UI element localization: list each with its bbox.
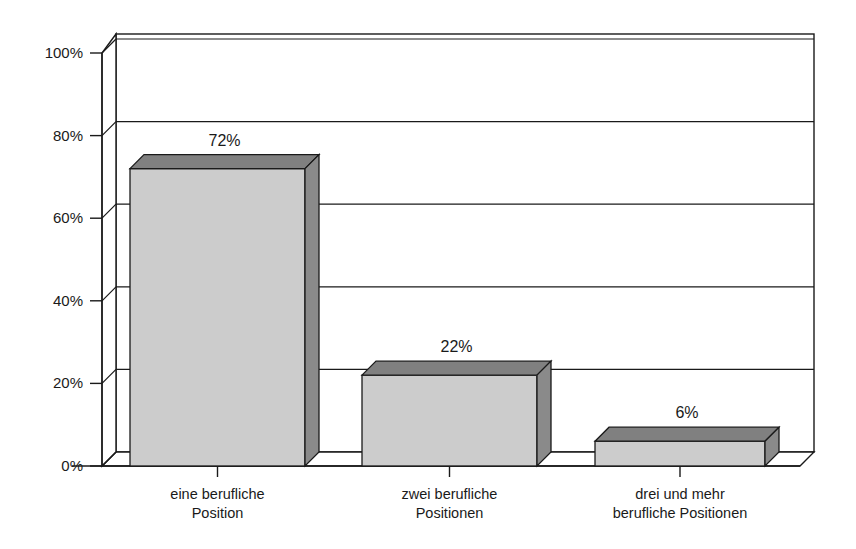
y-tick-label: 0%: [61, 457, 83, 474]
bar-front-face: [595, 441, 765, 466]
bar-top-face: [130, 155, 319, 169]
y-axis-ticks: 0%20%40%60%80%100%: [45, 44, 102, 474]
category-labels-group: eine beruflichePositionzwei beruflichePo…: [170, 486, 747, 521]
bar-side-face: [305, 155, 319, 466]
bar-value-label: 22%: [440, 338, 472, 355]
y-tick-label: 20%: [53, 374, 83, 391]
bar-value-label: 6%: [675, 404, 698, 421]
bar-top-face: [595, 427, 779, 441]
category-label: zwei berufliche: [402, 486, 498, 502]
bar-1[interactable]: [130, 155, 319, 466]
category-label: Position: [192, 505, 244, 521]
chart-container: 0%20%40%60%80%100% 72%22%6% eine berufli…: [0, 0, 856, 549]
y-tick-label: 60%: [53, 209, 83, 226]
category-label: eine berufliche: [170, 486, 264, 502]
bar-side-face: [537, 361, 551, 466]
bar-front-face: [362, 375, 537, 466]
left-wall: [102, 34, 116, 466]
bar-value-label: 72%: [208, 132, 240, 149]
category-label: berufliche Positionen: [613, 505, 748, 521]
bar-2[interactable]: [362, 361, 551, 466]
bar-chart-3d: 0%20%40%60%80%100% 72%22%6% eine berufli…: [0, 0, 856, 549]
category-label: drei und mehr: [635, 486, 725, 502]
y-tick-label: 100%: [45, 44, 83, 61]
category-label: Positionen: [416, 505, 484, 521]
x-axis-ticks: [218, 466, 681, 477]
bar-3[interactable]: [595, 427, 779, 466]
bar-front-face: [130, 169, 305, 466]
bar-top-face: [362, 361, 551, 375]
y-tick-label: 80%: [53, 127, 83, 144]
y-tick-label: 40%: [53, 292, 83, 309]
